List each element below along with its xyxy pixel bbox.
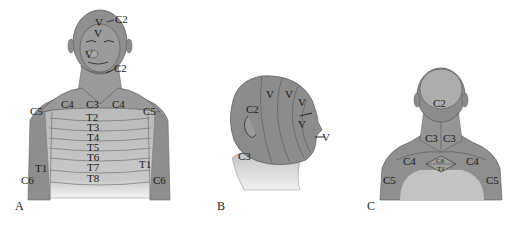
label-c4-left: C4 bbox=[403, 155, 416, 167]
label-c3-right: C3 bbox=[443, 132, 456, 144]
panel-label-b: B bbox=[217, 199, 225, 213]
panel-label-c: C bbox=[367, 199, 375, 213]
label-t1-left: T1 bbox=[35, 162, 47, 174]
label-c4-right: C4 bbox=[466, 155, 479, 167]
label-c2: C2 bbox=[433, 97, 446, 109]
label-v-mouth: V bbox=[322, 131, 330, 143]
label-t1: T1 bbox=[437, 165, 445, 173]
label-c5-left: C5 bbox=[383, 174, 396, 186]
label-c5-right: C5 bbox=[143, 105, 156, 117]
label-c3: C3 bbox=[86, 98, 99, 110]
label-c2-head: C2 bbox=[115, 13, 128, 25]
label-c3: C3 bbox=[238, 150, 251, 162]
label-t1-right: T1 bbox=[139, 158, 151, 170]
label-c2-jaw: C2 bbox=[114, 62, 127, 74]
label-c6-left: C6 bbox=[21, 174, 34, 186]
panel-a-anterior: C2 V V V C2 C4 C3 C4 C5 C5 T2 T3 T4 T5 T… bbox=[15, 10, 170, 213]
label-c3-left: C3 bbox=[425, 132, 438, 144]
label-c2: C2 bbox=[246, 103, 259, 115]
label-v3: V bbox=[85, 48, 93, 60]
label-v-c: V bbox=[298, 96, 306, 108]
label-c5-left: C5 bbox=[30, 105, 43, 117]
panel-c-posterior: C2 C3 C3 C4 C4 C6 T1 C5 C5 C bbox=[367, 68, 502, 213]
label-v-a: V bbox=[266, 88, 274, 100]
label-v2: V bbox=[94, 27, 102, 39]
panel-label-a: A bbox=[15, 199, 24, 213]
label-v-b: V bbox=[285, 88, 293, 100]
label-c5-right: C5 bbox=[486, 174, 499, 186]
label-v-d: V bbox=[298, 118, 306, 130]
label-t8: T8 bbox=[87, 172, 100, 184]
label-c4-right: C4 bbox=[112, 98, 125, 110]
label-c6: C6 bbox=[436, 157, 445, 165]
panel-b-lateral: V V V V V C2 C3 B bbox=[217, 76, 330, 213]
dermatome-figure: C2 V V V C2 C4 C3 C4 C5 C5 T2 T3 T4 T5 T… bbox=[0, 0, 519, 227]
label-c6-right: C6 bbox=[153, 174, 166, 186]
label-c4-left: C4 bbox=[61, 98, 74, 110]
